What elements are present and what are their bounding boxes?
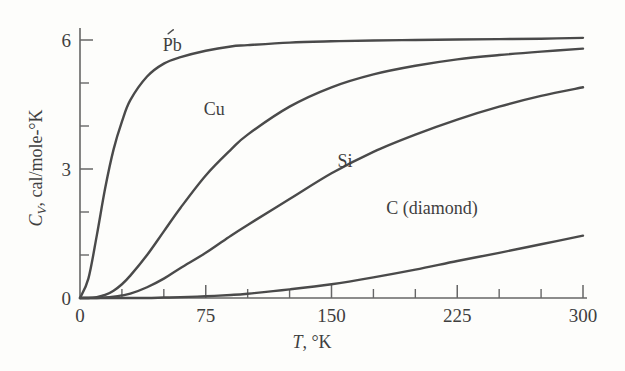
- heat-capacity-chart: 075150225300 036 PbCuSiC (diamond) T, °K…: [0, 0, 625, 371]
- curve-label-c-diamond: C (diamond): [386, 198, 478, 219]
- y-tick-label: 0: [62, 288, 72, 309]
- x-tick-label: 0: [75, 305, 85, 326]
- x-tick-label: 300: [569, 305, 598, 326]
- x-axis-units: , °K: [302, 332, 331, 352]
- y-tick-label: 3: [62, 159, 72, 180]
- y-axis-units: , cal/mole-°K: [26, 109, 46, 206]
- curve-label-cu: Cu: [204, 99, 225, 119]
- curve-label-pb: Pb: [163, 35, 182, 55]
- y-tick-label: 6: [62, 30, 72, 51]
- curve-label-si: Si: [337, 151, 352, 171]
- x-tick-label: 75: [196, 305, 215, 326]
- figure-container: 075150225300 036 PbCuSiC (diamond) T, °K…: [0, 0, 625, 371]
- x-tick-label: 150: [317, 305, 346, 326]
- x-tick-label: 225: [443, 305, 472, 326]
- x-axis-title: T, °K: [292, 332, 331, 352]
